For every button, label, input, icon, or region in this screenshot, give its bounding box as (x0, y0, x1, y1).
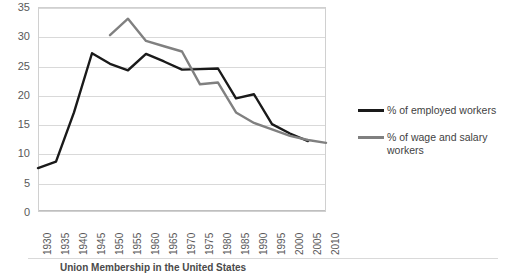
y-axis-tick-label: 10 (18, 148, 30, 159)
y-axis-tick-label: 0 (24, 207, 30, 218)
series-line (38, 53, 308, 168)
x-axis-tick-label: 1985 (240, 233, 251, 255)
x-axis-tick-label: 1945 (96, 233, 107, 255)
x-axis-tick-label: 1940 (78, 233, 89, 255)
y-axis-labels: 05101520253035 (0, 0, 34, 219)
x-axis-labels: 1930193519401945195019551960196519701975… (38, 213, 326, 258)
x-axis-tick-label: 1930 (42, 233, 53, 255)
x-axis-tick-label: 2010 (330, 233, 341, 255)
y-axis-tick-label: 5 (24, 177, 30, 188)
chart-caption: Union Membership in the United States (60, 262, 500, 274)
legend-label-employed-workers: % of employed workers (387, 104, 496, 117)
series-line (110, 19, 326, 143)
x-axis-tick-label: 1980 (222, 233, 233, 255)
x-axis-tick-label: 1975 (204, 233, 215, 255)
legend-swatch-employed-workers (358, 109, 384, 112)
caption-divider (28, 258, 498, 259)
x-axis-tick-label: 2000 (294, 233, 305, 255)
y-axis-tick-label: 15 (18, 119, 30, 130)
legend-item[interactable]: % of employed workers (358, 104, 526, 117)
x-axis-tick-label: 1970 (186, 233, 197, 255)
x-axis-tick-label: 1990 (258, 233, 269, 255)
legend-swatch-wage-salary-workers (358, 136, 384, 139)
y-axis-tick-label: 20 (18, 89, 30, 100)
y-axis-tick-label: 25 (18, 60, 30, 71)
x-axis-tick-label: 1955 (132, 233, 143, 255)
legend-item[interactable]: % of wage and salary workers (358, 131, 526, 157)
legend-label-wage-salary-workers: % of wage and salary workers (387, 131, 519, 157)
chart-legend: % of employed workers % of wage and sala… (358, 104, 526, 171)
x-axis-tick-label: 1950 (114, 233, 125, 255)
x-axis-tick-label: 2005 (312, 233, 323, 255)
x-axis-tick-label: 1965 (168, 233, 179, 255)
x-axis-tick-label: 1935 (60, 233, 71, 255)
series-layer (38, 7, 326, 212)
y-axis-tick-label: 30 (18, 31, 30, 42)
x-axis-tick-label: 1995 (276, 233, 287, 255)
x-axis-tick-label: 1960 (150, 233, 161, 255)
y-axis-tick-label: 35 (18, 2, 30, 13)
chart-container: 05101520253035 1930193519401945195019551… (0, 0, 528, 274)
